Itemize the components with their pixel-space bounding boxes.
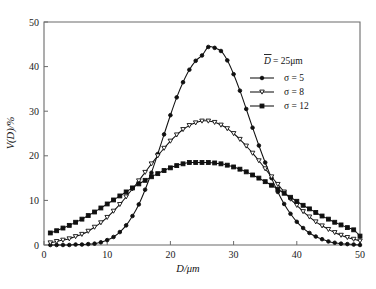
data-point-marker	[352, 228, 356, 232]
y-tick-label: 0	[34, 240, 39, 251]
data-point-marker	[74, 220, 78, 224]
data-point-marker	[263, 180, 267, 184]
x-tick-label: 20	[165, 249, 175, 260]
data-point-marker	[187, 161, 191, 165]
data-point-marker	[131, 214, 135, 218]
data-point-marker	[232, 165, 236, 169]
x-tick-label: 0	[42, 249, 47, 260]
data-point-marker	[333, 241, 337, 245]
data-point-marker	[61, 226, 65, 230]
data-point-marker	[358, 234, 362, 238]
y-tick-label: 40	[29, 61, 39, 72]
data-point-marker	[339, 242, 343, 246]
x-tick-label: 10	[102, 249, 112, 260]
data-point-marker	[86, 242, 90, 246]
x-tick-label: 50	[355, 249, 365, 260]
data-point-marker	[207, 45, 211, 49]
data-point-marker	[282, 191, 286, 195]
data-point-marker	[238, 167, 242, 171]
y-tick-label: 30	[29, 106, 39, 117]
chart-container: 01020304050 01020304050 D= 25μmσ = 5σ = …	[0, 0, 376, 289]
data-point-marker	[169, 113, 173, 117]
data-point-marker	[118, 194, 122, 198]
data-point-marker	[333, 220, 337, 224]
data-point-marker	[181, 80, 185, 84]
data-point-marker	[124, 190, 128, 194]
data-point-marker	[282, 202, 286, 206]
data-point-marker	[238, 89, 242, 93]
data-point-marker	[194, 59, 198, 63]
legend-label: σ = 5	[284, 73, 304, 83]
data-point-marker	[326, 217, 330, 221]
legend-label: σ = 8	[284, 87, 304, 97]
data-point-marker	[260, 76, 264, 80]
data-point-marker	[162, 169, 166, 173]
data-point-marker	[112, 198, 116, 202]
y-tick-label: 20	[29, 150, 39, 161]
data-point-marker	[105, 238, 109, 242]
svg-text:V(D)/%: V(D)/%	[5, 116, 17, 149]
data-point-marker	[93, 210, 97, 214]
data-point-marker	[244, 107, 248, 111]
data-point-marker	[99, 241, 103, 245]
data-point-marker	[143, 178, 147, 182]
data-point-marker	[156, 172, 160, 176]
data-point-marker	[67, 223, 71, 227]
data-point-marker	[181, 162, 185, 166]
data-point-marker	[124, 224, 128, 228]
svg-text:D/μm: D/μm	[175, 263, 200, 274]
data-point-marker	[251, 173, 255, 177]
data-point-marker	[320, 237, 324, 241]
data-point-marker	[213, 161, 217, 165]
data-point-marker	[105, 202, 109, 206]
data-point-marker	[301, 226, 305, 230]
data-point-marker	[307, 207, 311, 211]
data-point-marker	[194, 161, 198, 165]
data-point-marker	[308, 231, 312, 235]
legend-annotation-value: = 25μm	[273, 56, 303, 66]
data-point-marker	[99, 206, 103, 210]
x-tick-label: 40	[292, 249, 302, 260]
data-point-marker	[55, 229, 59, 233]
data-point-marker	[225, 163, 229, 167]
data-point-marker	[118, 230, 122, 234]
data-point-marker	[232, 72, 236, 76]
data-point-marker	[48, 231, 52, 235]
data-point-marker	[86, 214, 90, 218]
data-point-marker	[175, 164, 179, 168]
data-point-marker	[168, 166, 172, 170]
data-point-marker	[257, 144, 261, 148]
y-tick-label: 10	[29, 195, 39, 206]
y-tick-label: 50	[29, 17, 39, 28]
data-point-marker	[320, 214, 324, 218]
data-point-marker	[150, 171, 154, 175]
data-point-marker	[260, 104, 264, 108]
data-point-marker	[289, 212, 293, 216]
data-point-marker	[137, 203, 141, 207]
data-point-marker	[244, 170, 248, 174]
data-point-marker	[131, 186, 135, 190]
data-point-marker	[213, 46, 217, 50]
data-point-marker	[276, 187, 280, 191]
legend-label: σ = 12	[284, 101, 309, 111]
distribution-line-chart: 01020304050 01020304050 D= 25μmσ = 5σ = …	[0, 0, 376, 289]
data-point-marker	[200, 161, 204, 165]
data-point-marker	[93, 242, 97, 246]
data-point-marker	[263, 161, 267, 165]
data-point-marker	[67, 243, 71, 247]
data-point-marker	[339, 223, 343, 227]
data-point-marker	[162, 133, 166, 137]
data-point-marker	[257, 176, 261, 180]
data-point-marker	[327, 240, 331, 244]
data-point-marker	[345, 226, 349, 230]
data-point-marker	[200, 54, 204, 58]
x-tick-label: 30	[229, 249, 239, 260]
data-point-marker	[301, 203, 305, 207]
y-axis-title: V(D)/%	[5, 116, 17, 149]
data-point-marker	[314, 210, 318, 214]
data-point-marker	[270, 183, 274, 187]
legend-annotation: D= 25μm	[263, 55, 303, 67]
data-point-marker	[219, 49, 223, 53]
data-point-marker	[289, 195, 293, 199]
data-point-marker	[295, 220, 299, 224]
